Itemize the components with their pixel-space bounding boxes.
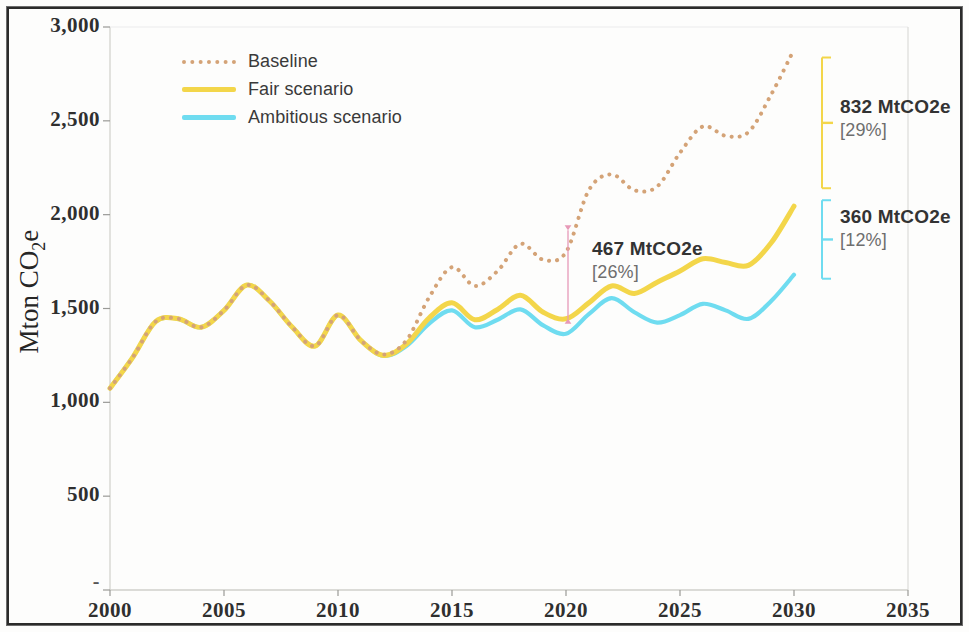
- legend-item-baseline[interactable]: Baseline: [182, 48, 482, 74]
- legend-item-fair-scenario[interactable]: Fair scenario: [182, 76, 482, 102]
- legend-swatch-bar: [182, 115, 236, 120]
- annotation-467: 467 MtCO2e [26%]: [592, 238, 703, 283]
- legend-item-ambitious-scenario[interactable]: Ambitious scenario: [182, 104, 482, 130]
- chart-plot-area: [0, 0, 969, 632]
- series-line-ambitious-scenario: [110, 275, 794, 389]
- legend-swatch-bar: [182, 60, 236, 68]
- legend-label: Ambitious scenario: [248, 107, 402, 128]
- annotation-markers: [565, 58, 833, 324]
- annotation-467-percent: [26%]: [592, 262, 703, 283]
- annotation-360: 360 MtCO2e [12%]: [840, 206, 951, 251]
- annotation-360-bracket: [822, 200, 833, 278]
- annotation-360-percent: [12%]: [840, 230, 951, 251]
- series-line-fair-scenario: [110, 206, 794, 388]
- legend-swatch-fair-scenario-icon: [182, 82, 236, 96]
- legend-swatch-ambitious-scenario-icon: [182, 110, 236, 124]
- annotation-832-percent: [29%]: [840, 120, 951, 141]
- annotation-832-bracket: [822, 58, 833, 189]
- legend-label: Fair scenario: [248, 79, 353, 100]
- legend-swatch-bar: [182, 87, 236, 92]
- annotation-832-value: 832 MtCO2e: [840, 96, 951, 118]
- annotation-360-value: 360 MtCO2e: [840, 206, 951, 228]
- legend-label: Baseline: [248, 51, 318, 72]
- legend-swatch-baseline-icon: [182, 54, 236, 68]
- annotation-467-value: 467 MtCO2e: [592, 238, 703, 260]
- annotation-832: 832 MtCO2e [29%]: [840, 96, 951, 141]
- chart-figure: Mton CO2e -5001,0001,5002,0002,5003,000 …: [0, 0, 969, 632]
- chart-legend: BaselineFair scenarioAmbitious scenario: [182, 48, 482, 132]
